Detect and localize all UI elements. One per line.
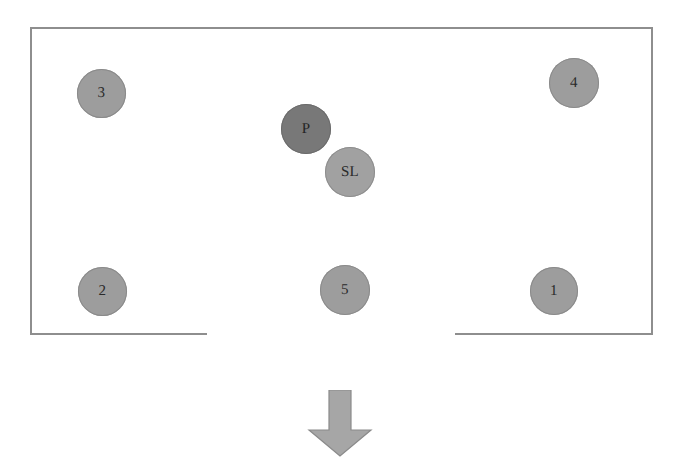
diagram-canvas: 34PSL251 <box>0 0 674 474</box>
room-wall-left <box>30 27 32 335</box>
node-4: 4 <box>549 58 599 108</box>
room-wall-bottom-right <box>455 333 653 335</box>
down-arrow-shape <box>309 390 371 456</box>
node-p: P <box>281 104 331 154</box>
node-3: 3 <box>77 69 126 118</box>
room-wall-top <box>30 27 653 29</box>
down-arrow-icon <box>305 390 375 457</box>
node-sl-label: SL <box>341 164 359 179</box>
node-1: 1 <box>530 267 578 315</box>
node-5: 5 <box>320 265 370 315</box>
node-sl: SL <box>325 147 375 197</box>
node-3-label: 3 <box>98 86 106 101</box>
node-1-label: 1 <box>550 283 558 298</box>
node-2: 2 <box>78 267 127 316</box>
node-4-label: 4 <box>570 75 578 90</box>
node-5-label: 5 <box>341 282 349 297</box>
room-wall-bottom-left <box>30 333 207 335</box>
node-p-label: P <box>302 121 311 136</box>
node-2-label: 2 <box>99 284 107 299</box>
room-wall-right <box>651 27 653 335</box>
